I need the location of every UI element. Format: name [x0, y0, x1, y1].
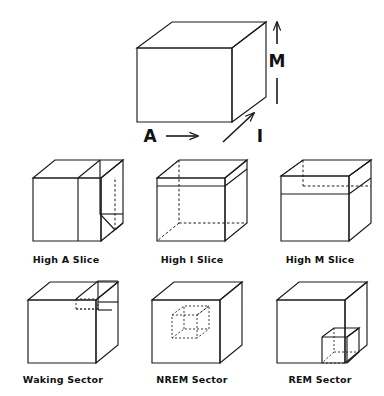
axis-label-i: I	[257, 126, 263, 146]
aim-cube-figure: .s { fill:none; stroke:#1a1a1a; stroke-w…	[0, 0, 384, 396]
caption-nrem-sector: NREM Sector	[156, 374, 227, 385]
axis-label-a: A	[143, 126, 156, 146]
caption-high-a-slice: High A Slice	[33, 254, 100, 265]
panel-rem-sector-cube	[277, 282, 367, 363]
axis-label-m: M	[269, 51, 286, 71]
caption-rem-sector: REM Sector	[288, 374, 351, 385]
panel-high-m-slice-cube	[281, 160, 371, 241]
panel-waking-sector-cube	[28, 281, 118, 363]
panel-high-a-slice-cube	[33, 160, 123, 241]
reference-cube	[137, 22, 266, 122]
caption-waking-sector: Waking Sector	[23, 374, 103, 385]
panel-nrem-sector-cube	[152, 282, 242, 363]
panel-high-i-slice-cube	[157, 160, 247, 241]
figure-canvas: .s { fill:none; stroke:#1a1a1a; stroke-w…	[0, 0, 384, 396]
caption-high-i-slice: High I Slice	[161, 254, 224, 265]
caption-high-m-slice: High M Slice	[286, 254, 355, 265]
